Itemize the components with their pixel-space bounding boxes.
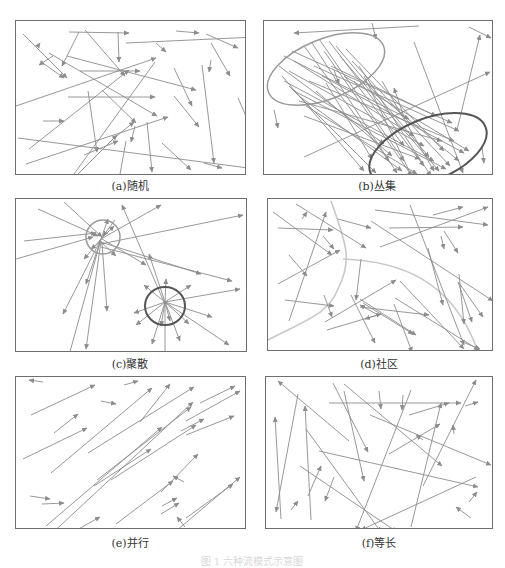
panel-random	[15, 20, 246, 175]
flow-arrow	[111, 425, 196, 480]
flow-arrow	[54, 414, 78, 433]
caption-equal-length: (f)等长	[362, 534, 397, 550]
flow-canvas	[268, 199, 492, 350]
flow-arrow	[162, 498, 177, 506]
flow-arrow	[102, 239, 146, 265]
flow-arrow	[365, 314, 381, 319]
community-boundary-curve	[268, 201, 346, 340]
flow-arrow	[409, 403, 449, 415]
flow-arrow	[296, 204, 366, 248]
flow-arrow	[400, 281, 464, 349]
flow-arrow	[18, 138, 245, 169]
flow-arrow	[465, 402, 478, 406]
flow-arrow	[116, 481, 173, 524]
flow-arrow	[31, 385, 95, 415]
flow-arrow	[300, 466, 397, 528]
flow-arrow	[402, 395, 403, 410]
flow-arrow	[308, 466, 321, 496]
flow-arrow	[338, 219, 371, 228]
flow-arrow	[453, 425, 454, 434]
flow-arrow	[69, 62, 155, 174]
figure-caption: 图 1 六种流模式示意图	[201, 553, 304, 568]
flow-arrow	[134, 302, 165, 313]
flow-arrow	[126, 37, 245, 43]
flow-arrow	[124, 381, 138, 385]
caption-parallel: (e)并行	[111, 534, 148, 550]
flow-arrow	[29, 380, 43, 382]
flow-arrow	[101, 401, 116, 404]
flow-arrow	[361, 477, 476, 528]
flow-arrow	[428, 248, 443, 305]
flow-arrow	[23, 34, 67, 78]
flow-arrow	[375, 210, 488, 225]
flow-arrow	[274, 110, 278, 128]
flow-arrow	[118, 32, 119, 62]
caption-community: (d)社区	[360, 355, 398, 371]
flow-arrow	[356, 259, 361, 300]
flow-arrow	[86, 241, 101, 349]
flow-arrow	[323, 236, 334, 249]
flow-arrow	[482, 147, 484, 163]
flow-arrow	[370, 415, 491, 465]
flow-arrow	[305, 406, 311, 520]
flow-arrow	[333, 383, 368, 452]
flow-arrow	[26, 117, 168, 164]
panel-cluster	[263, 20, 493, 175]
flow-arrow	[24, 233, 96, 241]
panel-equal-length	[265, 376, 493, 529]
flow-arrow	[457, 35, 480, 130]
flow-arrow	[444, 231, 458, 253]
flow-canvas	[16, 21, 245, 174]
flow-arrow	[162, 143, 191, 170]
flow-arrow	[278, 381, 349, 441]
flow-arrow	[46, 427, 162, 526]
flow-arrow	[136, 302, 165, 325]
flow-arrow	[325, 477, 334, 501]
flow-arrow	[147, 122, 152, 172]
panel-converge-diverge	[15, 198, 247, 352]
flow-arrow	[165, 279, 166, 303]
flow-arrow	[101, 215, 243, 244]
flow-arrow	[344, 384, 442, 466]
flow-arrow	[302, 212, 307, 219]
flow-arrow	[423, 380, 476, 486]
flow-arrow	[75, 517, 100, 528]
flow-arrow	[209, 60, 211, 72]
flow-arrow	[291, 501, 298, 510]
flow-arrow	[389, 227, 463, 228]
flow-arrow	[206, 34, 238, 48]
flow-arrow	[177, 517, 185, 527]
panel-community	[267, 198, 493, 351]
flow-arrow	[200, 386, 235, 403]
flow-arrow	[211, 43, 230, 76]
flow-arrow	[174, 96, 199, 127]
flow-canvas	[16, 377, 245, 528]
flow-arrow	[114, 122, 134, 138]
flow-canvas	[264, 21, 492, 174]
flow-arrow	[379, 391, 381, 409]
flow-arrow	[16, 58, 156, 106]
flow-arrow	[284, 81, 434, 161]
flow-arrow	[38, 209, 98, 236]
flow-arrow	[173, 476, 184, 482]
flow-arrow	[62, 32, 79, 66]
flow-arrow	[119, 141, 126, 174]
flow-arrow	[319, 451, 478, 487]
flow-arrow	[202, 65, 214, 163]
flow-arrow	[278, 250, 340, 284]
flow-arrow	[331, 66, 436, 116]
panel-parallel	[15, 376, 246, 529]
caption-cluster: (b)丛集	[358, 177, 396, 193]
flow-arrow	[354, 81, 404, 146]
flow-arrow	[38, 43, 40, 46]
flow-arrow	[469, 492, 477, 502]
caption-random: (a)随机	[111, 177, 148, 193]
flow-arrow	[156, 43, 166, 52]
caption-converge-diverge: (c)聚散	[112, 355, 149, 371]
flow-arrow	[69, 32, 129, 33]
flow-arrow	[441, 236, 444, 249]
flow-canvas	[266, 377, 492, 528]
flow-arrow	[101, 247, 232, 281]
flow-arrow	[174, 68, 192, 106]
flow-arrow	[29, 70, 129, 149]
